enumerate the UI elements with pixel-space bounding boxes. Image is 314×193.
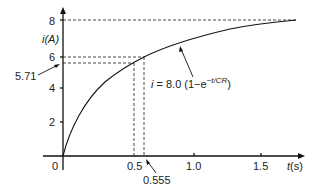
y-tick-6: 6 bbox=[49, 51, 55, 63]
annotation-0555: 0.555 bbox=[143, 174, 171, 186]
equation-label: i = 8.0 (1−e−t/CR) bbox=[151, 76, 231, 90]
axes bbox=[43, 12, 300, 170]
annotation-571: 5.71 bbox=[15, 70, 36, 82]
y-tick-4: 4 bbox=[49, 82, 55, 94]
y-tick-8: 8 bbox=[49, 15, 55, 27]
y-tick-2: 2 bbox=[49, 116, 55, 128]
arrowhead-571-icon bbox=[54, 64, 60, 68]
x-tick-10: 1.0 bbox=[186, 160, 201, 172]
x-axis-arrow-icon bbox=[298, 153, 305, 159]
chart-canvas: 8 6 4 2 0 0.5 1.0 1.5 i(A) t(s) 5.71 0.5… bbox=[0, 0, 314, 193]
annotation-arrows bbox=[38, 49, 193, 173]
arrow-equation bbox=[181, 49, 193, 77]
y-axis-label: i(A) bbox=[42, 33, 59, 45]
arrow-0555 bbox=[148, 162, 156, 173]
y-axis-arrow-icon bbox=[60, 7, 66, 14]
x-axis-label: t(s) bbox=[287, 160, 303, 172]
x-tick-05: 0.5 bbox=[127, 160, 142, 172]
x-tick-15: 1.5 bbox=[253, 160, 268, 172]
x-tick-0: 0 bbox=[52, 160, 58, 172]
arrowhead-equation-icon bbox=[179, 46, 183, 52]
